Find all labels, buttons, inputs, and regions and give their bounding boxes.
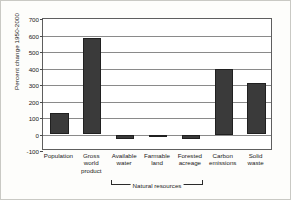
x-label-line: world <box>84 159 99 166</box>
y-tick-label: 500 <box>29 49 39 56</box>
bar <box>182 135 200 140</box>
x-label-line: Solid <box>249 152 263 159</box>
y-tick-mark <box>40 36 43 37</box>
gridline <box>43 118 271 119</box>
y-tick-mark <box>40 135 43 136</box>
x-label-line: product <box>81 167 102 174</box>
y-tick-label: -100 <box>27 148 39 155</box>
gridline <box>43 36 271 37</box>
x-label-line: land <box>151 159 163 166</box>
y-tick-mark <box>40 118 43 119</box>
x-label-line: Population <box>44 152 73 159</box>
gridline <box>43 52 271 53</box>
x-label-line: Gross <box>83 152 100 159</box>
x-label-line: Available <box>112 152 137 159</box>
y-tick-label: 200 <box>29 98 39 105</box>
y-tick-mark <box>40 85 43 86</box>
bar <box>247 83 265 134</box>
y-tick-mark <box>40 19 43 20</box>
x-axis-labels: PopulationGrossworldproductAvailablewate… <box>42 152 272 182</box>
bar <box>149 135 167 137</box>
bar <box>50 113 68 134</box>
gridline <box>43 69 271 70</box>
bar <box>83 38 101 135</box>
y-tick-label: 300 <box>29 82 39 89</box>
x-label-line: Farmable <box>144 152 170 159</box>
y-tick-label: 400 <box>29 65 39 72</box>
category-group-label: Natural resources <box>131 182 184 189</box>
y-tick-label: 700 <box>29 16 39 23</box>
y-tick-label: 600 <box>29 32 39 39</box>
x-label-line: emissions <box>209 159 237 166</box>
x-label-line: waste <box>247 159 263 166</box>
y-tick-mark <box>40 102 43 103</box>
x-label-line: Forested <box>178 152 202 159</box>
y-tick-label: 0 <box>36 131 39 138</box>
y-tick-mark <box>40 69 43 70</box>
y-axis-title: Percent change 1950-2000 <box>13 0 20 112</box>
chart-figure: Percent change 1950-2000 700600500400300… <box>0 0 291 200</box>
bar <box>215 69 233 135</box>
y-tick-label: 100 <box>29 115 39 122</box>
gridline <box>43 102 271 103</box>
bar <box>116 135 134 139</box>
y-tick-mark <box>40 52 43 53</box>
gridline <box>43 85 271 86</box>
x-label-line: Carbon <box>213 152 233 159</box>
x-label-line: water <box>117 159 132 166</box>
x-axis-label: Solidwaste <box>236 152 275 167</box>
plot-area: 7006005004003002001000-100 <box>42 18 272 150</box>
x-label-line: acreage <box>179 159 201 166</box>
